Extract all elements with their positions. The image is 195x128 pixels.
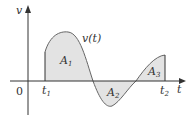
t1-label: t1 bbox=[42, 84, 51, 98]
shaded-region bbox=[45, 32, 165, 106]
y-axis-arrow-icon bbox=[25, 5, 31, 13]
x-axis-label: t bbox=[177, 83, 182, 96]
curve-label: v(t) bbox=[82, 32, 101, 45]
y-axis-label: v bbox=[16, 4, 23, 17]
area-under-curve-diagram: v t 0 v(t) t1 t2 A1 A2 A3 bbox=[0, 0, 195, 128]
t2-label: t2 bbox=[160, 84, 169, 98]
origin-label: 0 bbox=[16, 85, 23, 98]
